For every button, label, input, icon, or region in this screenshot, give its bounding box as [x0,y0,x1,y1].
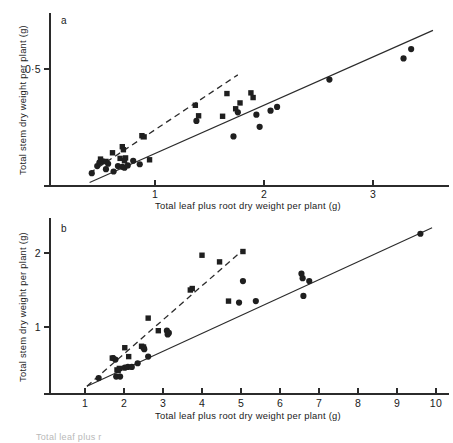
y-tick-label-b-0: 1 [35,321,41,333]
data-point-square [250,95,255,100]
panel-a: 0·5 1 2 3 a Total leaf plus root dry wei… [0,0,453,212]
x-tick-label-a-2: 3 [370,188,376,200]
data-point-square [98,156,103,161]
data-point-square [217,259,222,264]
x-tick-label-b-9: 10 [430,397,442,409]
panel-b-axes [44,218,449,394]
data-point-circle [408,46,414,52]
data-point-circle [253,298,259,304]
panel-b: 12345678910 1 2 b Total leaf plus root d… [0,205,453,443]
x-tick-label-a-1: 2 [261,188,267,200]
panel-b-y-tick-labels: 1 2 [35,247,41,333]
data-point-square [110,150,115,155]
panel-b-x-ticks [85,388,436,394]
x-tick-label-b-1: 2 [121,397,127,409]
panel-a-fit-lines [90,30,433,182]
x-tick-label-b-6: 7 [316,397,322,409]
fit-dashed-b [87,250,243,386]
data-point-circle [326,76,332,82]
data-point-square [145,315,150,320]
panel-a-square-markers [98,90,256,164]
figure-root: 0·5 1 2 3 a Total leaf plus root dry wei… [0,0,453,443]
panel-b-circle-markers [96,231,424,381]
x-tick-label-b-2: 3 [160,397,166,409]
data-point-circle [267,108,273,114]
data-point-square [240,249,245,254]
data-point-square [141,134,146,139]
x-tick-label-b-8: 9 [394,397,400,409]
x-tick-label-b-3: 4 [199,397,205,409]
data-point-circle [166,330,172,336]
data-point-square [110,355,115,360]
data-point-circle [300,275,306,281]
x-tick-label-a-0: 1 [152,188,158,200]
data-point-square [141,344,146,349]
data-point-square [248,90,253,95]
data-point-square [117,366,122,371]
data-point-square [121,147,126,152]
data-point-square [193,103,198,108]
data-point-circle [117,373,123,379]
data-point-circle [274,104,280,110]
data-point-square [190,286,195,291]
data-point-circle [306,278,312,284]
data-point-square [156,328,161,333]
data-point-circle [130,158,136,164]
data-point-circle [193,118,199,124]
data-point-square [123,155,128,160]
data-point-square [237,100,242,105]
y-tick-label-b-1: 2 [35,247,41,259]
x-tick-label-b-0: 1 [82,397,88,409]
y-axis-title-a: Total stem dry weight per plant (g) [17,25,28,175]
data-point-circle [236,299,242,305]
data-point-circle [145,354,151,360]
data-point-circle [110,168,116,174]
data-point-circle [137,161,143,167]
data-point-circle [129,364,135,370]
data-point-circle [89,170,95,176]
data-point-square [103,159,108,164]
panel-a-tick-labels: 0·5 1 2 3 [25,63,376,200]
caption-fragment: Total leaf plus r [36,432,102,442]
data-point-circle [240,278,246,284]
data-point-square [126,354,131,359]
data-point-square [233,106,238,111]
data-point-square [122,345,127,350]
panel-b-plot: 12345678910 1 2 b Total leaf plus root d… [0,205,453,443]
panel-letter-a: a [61,15,67,26]
panel-letter-b: b [61,223,67,234]
panel-b-x-tick-labels: 12345678910 [82,397,442,409]
data-point-circle [230,133,236,139]
data-point-square [196,113,201,118]
data-point-square [147,157,152,162]
data-point-circle [253,112,259,118]
data-point-square [224,91,229,96]
data-point-circle [400,55,406,61]
data-point-circle [103,166,109,172]
fit-solid-a [90,30,433,182]
panel-a-plot: 0·5 1 2 3 a Total leaf plus root dry wei… [0,0,453,212]
data-point-circle [135,360,141,366]
data-point-circle [96,375,102,381]
data-point-circle [417,231,423,237]
x-tick-label-b-5: 6 [277,397,283,409]
x-tick-label-b-7: 8 [355,397,361,409]
x-axis-title-b: Total leaf plus root dry weight per plan… [155,410,341,421]
panel-b-square-markers [110,249,246,374]
fit-dashed-a [90,75,238,173]
data-point-square [199,253,204,258]
data-point-circle [257,124,263,130]
data-point-square [226,298,231,303]
data-point-circle [300,293,306,299]
data-point-square [220,114,225,119]
x-tick-label-b-4: 5 [238,397,244,409]
y-axis-title-b: Total stem dry weight per plant (g) [17,232,28,382]
